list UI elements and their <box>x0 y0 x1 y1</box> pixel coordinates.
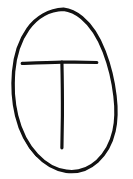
sketch-canvas: Hand-drawn letter T inside an oval T A f… <box>0 0 133 179</box>
letter-t-crossbar-stroke <box>22 62 97 63</box>
letter-t-stem-stroke <box>62 62 63 148</box>
drawing-svg <box>0 0 133 179</box>
